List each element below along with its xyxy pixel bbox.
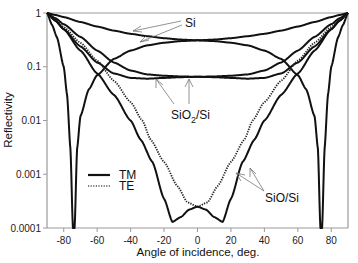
annotation-sio2-si: SiO2/Si — [171, 108, 210, 125]
y-tick-label: 1 — [35, 8, 41, 19]
y-tick-label: 0.001 — [16, 169, 41, 180]
y-ticks: 10.10.010.0010.0001 — [10, 8, 47, 234]
x-tick-label: -20 — [157, 235, 172, 246]
annotation-sio2-tail: /Si — [196, 108, 210, 122]
y-tick-label: 0.1 — [27, 61, 41, 72]
legend: TM TE — [88, 168, 136, 193]
x-tick-label: -40 — [123, 235, 138, 246]
annotation-arrows — [133, 21, 264, 191]
y-tick-label: 0.01 — [22, 115, 42, 126]
legend-te-label: TE — [119, 179, 134, 193]
y-tick-label: 0.0001 — [10, 223, 41, 234]
x-tick-label: 0 — [195, 235, 201, 246]
curve-si-te — [47, 13, 348, 40]
x-axis-title: Angle of incidence, deg. — [137, 246, 260, 258]
sio2-arrow-1 — [156, 79, 174, 104]
reflectivity-chart: -80-60-40-20020406080 10.10.010.0010.000… — [0, 0, 358, 263]
annotation-sio-si: SiO/Si — [265, 191, 299, 205]
x-tick-label: -60 — [90, 235, 105, 246]
sio-arrow-2 — [250, 168, 264, 191]
annotation-si: Si — [185, 16, 196, 30]
x-tick-label: 60 — [292, 235, 304, 246]
si-arrow-1 — [133, 21, 181, 32]
annotation-sio2-main: SiO — [171, 108, 191, 122]
sio2-arrow-2 — [185, 79, 193, 104]
x-tick-label: 40 — [259, 235, 271, 246]
y-axis-title: Reflectivity — [2, 92, 14, 148]
x-tick-label: -80 — [56, 235, 71, 246]
x-ticks: -80-60-40-20020406080 — [56, 228, 337, 246]
x-tick-label: 80 — [326, 235, 338, 246]
x-tick-label: 20 — [225, 235, 237, 246]
